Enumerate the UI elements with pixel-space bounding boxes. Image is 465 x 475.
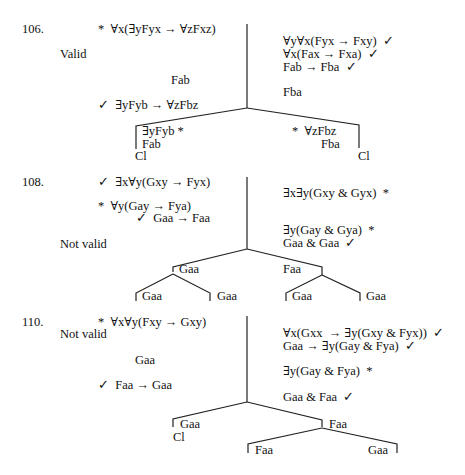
closed-marker: Cl	[173, 431, 185, 444]
left-formula: ✓ Faa → Gaa	[98, 379, 172, 392]
right-formula: Gaa → ∃y(Gay & Fya) ✓	[283, 340, 416, 353]
right-formula: Gaa & Faa ✓	[283, 391, 354, 404]
branch-108-left-right	[173, 274, 210, 301]
right-formula: Gaa & Gaa ✓	[283, 237, 356, 250]
problem-number: 110.	[22, 316, 43, 329]
closed-marker: Cl	[358, 150, 370, 163]
branch-110-right	[247, 402, 322, 427]
verdict-label: Valid	[60, 48, 86, 61]
premise-formula: * ∀x∀y(Fxy → Gxy)	[98, 316, 206, 329]
branch-formula: Fba	[321, 138, 340, 151]
branch-formula: Gaa	[179, 263, 199, 276]
premise-formula: * ∀x(∃yFyx → ∀zFxz)	[98, 23, 216, 36]
left-formula: ✓ Gaa → Faa	[136, 212, 210, 225]
right-formula: Fab → Fba ✓	[283, 61, 357, 74]
branch-formula: Faa	[255, 444, 273, 457]
verdict-label: Not valid	[60, 238, 107, 251]
branch-formula: Faa	[329, 418, 347, 431]
left-formula: Fab	[171, 74, 190, 87]
premise-formula: ✓ ∃x∀y(Gxy → Fyx)	[98, 176, 210, 189]
branch-formula: Gaa	[217, 290, 237, 303]
branch-formula: Gaa	[368, 444, 388, 457]
right-formula: ∃x∃y(Gxy & Gyx) *	[283, 187, 389, 200]
verdict-label: Not valid	[60, 328, 107, 341]
branch-formula: Gaa	[142, 290, 162, 303]
left-formula: ✓ ∃yFyb → ∀zFbz	[98, 99, 198, 112]
branch-formula: Gaa	[292, 290, 312, 303]
right-formula: Fba	[283, 86, 302, 99]
problem-number: 106.	[22, 23, 44, 36]
branch-formula: Gaa	[366, 290, 386, 303]
closed-marker: Cl	[135, 150, 147, 163]
problem-number: 108.	[22, 176, 44, 189]
branch-formula: Faa	[283, 263, 301, 276]
right-formula: ∃y(Gay & Fya) *	[283, 365, 372, 378]
branch-108-right-right	[322, 275, 360, 301]
left-formula: Gaa	[135, 354, 155, 367]
